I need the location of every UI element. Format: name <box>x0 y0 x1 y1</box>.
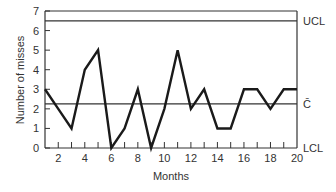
data-series-line <box>45 50 297 148</box>
y-axis-ticks: 01234567 <box>33 5 50 154</box>
x-tick-label: 16 <box>238 152 250 164</box>
control-chart: 01234567 2468101214161820 UCLC̄LCL Month… <box>0 0 336 192</box>
y-tick-label: 1 <box>33 122 39 134</box>
x-axis-label: Months <box>153 170 190 182</box>
x-tick-label: 10 <box>158 152 170 164</box>
y-tick-label: 2 <box>33 103 39 115</box>
control-line-label: UCL <box>303 15 325 27</box>
x-tick-label: 20 <box>291 152 303 164</box>
x-tick-label: 12 <box>185 152 197 164</box>
y-tick-label: 7 <box>33 5 39 17</box>
x-tick-label: 4 <box>82 152 88 164</box>
y-tick-label: 0 <box>33 142 39 154</box>
x-tick-label: 18 <box>264 152 276 164</box>
y-tick-label: 3 <box>33 83 39 95</box>
y-tick-label: 5 <box>33 44 39 56</box>
control-line-label: LCL <box>303 142 323 154</box>
x-tick-label: 6 <box>108 152 114 164</box>
control-line-label: C̄ <box>303 98 311 110</box>
x-tick-label: 8 <box>135 152 141 164</box>
y-axis-label: Number of misses <box>14 35 26 124</box>
x-tick-label: 2 <box>55 152 61 164</box>
x-tick-label: 14 <box>211 152 223 164</box>
y-tick-label: 4 <box>33 64 39 76</box>
y-tick-label: 6 <box>33 25 39 37</box>
x-axis-ticks: 2468101214161820 <box>55 142 303 164</box>
